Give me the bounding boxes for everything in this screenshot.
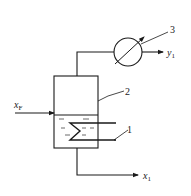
leader-line-1 [114,130,128,140]
label-liquid-x1: x1 [142,170,151,183]
label-vessel-2: 2 [125,86,130,97]
label-vapor-y1: y1 [166,47,175,60]
vessel [54,76,98,148]
leader-line-2 [98,91,124,101]
leader-line-3 [141,32,168,44]
process-diagram: 3 2 1 y1 xF x1 [0,0,191,196]
label-condenser-3: 3 [170,24,175,35]
diagram-canvas: 3 2 1 y1 xF x1 [0,0,191,196]
liquid-outlet-pipe [77,148,138,175]
label-feed-xF: xF [13,99,22,112]
vapor-pipe [77,52,114,76]
heating-coil [70,123,116,140]
liquid-surface-marks [59,119,94,135]
label-coil-1: 1 [127,124,132,135]
